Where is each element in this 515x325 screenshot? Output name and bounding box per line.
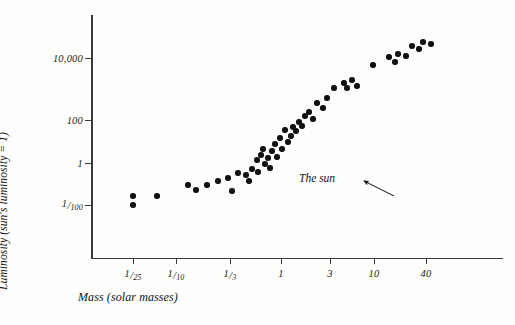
data-point bbox=[225, 175, 230, 180]
data-point bbox=[428, 41, 433, 46]
plot-area: 1/251/101/3131040 bbox=[91, 15, 515, 259]
x-tick-label: 1/25 bbox=[124, 268, 141, 282]
data-point bbox=[269, 148, 274, 153]
x-tick-label: 1 bbox=[278, 268, 283, 279]
data-point bbox=[344, 85, 349, 90]
x-tick-label: 1/3 bbox=[224, 268, 237, 282]
data-point bbox=[267, 165, 272, 170]
data-point bbox=[246, 178, 251, 183]
x-tick-mark bbox=[330, 258, 331, 264]
data-point bbox=[386, 54, 391, 59]
data-point bbox=[130, 202, 135, 207]
x-tick-mark bbox=[133, 258, 134, 264]
data-point bbox=[403, 53, 408, 58]
data-point bbox=[370, 62, 375, 67]
data-point bbox=[416, 46, 421, 51]
data-point bbox=[254, 157, 259, 162]
data-point bbox=[392, 59, 397, 64]
data-point bbox=[215, 178, 220, 183]
data-point bbox=[255, 169, 260, 174]
data-point bbox=[265, 155, 270, 160]
data-point bbox=[409, 43, 414, 48]
x-axis-line bbox=[91, 258, 503, 259]
data-point bbox=[243, 172, 248, 177]
x-tick-mark bbox=[374, 258, 375, 264]
x-tick-mark bbox=[426, 258, 427, 264]
y-tick-label-group: 10,00010011/100 bbox=[0, 15, 83, 259]
y-tick-label: 1 bbox=[78, 158, 83, 169]
data-point bbox=[229, 188, 234, 193]
data-point bbox=[320, 105, 325, 110]
data-point bbox=[310, 116, 315, 121]
data-point bbox=[279, 146, 284, 151]
data-point bbox=[349, 77, 354, 82]
data-point bbox=[277, 135, 282, 140]
data-point bbox=[249, 166, 254, 171]
data-point bbox=[285, 139, 290, 144]
x-axis-title: Mass (solar masses) bbox=[78, 290, 178, 305]
data-point bbox=[193, 187, 198, 192]
y-tick-mark bbox=[85, 205, 91, 206]
y-tick-label: 1/100 bbox=[62, 198, 83, 212]
x-tick-mark bbox=[281, 258, 282, 264]
x-tick-label: 10 bbox=[369, 268, 380, 279]
data-point bbox=[185, 182, 190, 187]
data-point bbox=[272, 141, 277, 146]
x-tick-label: 40 bbox=[421, 268, 432, 279]
data-point bbox=[235, 170, 240, 175]
data-point bbox=[420, 39, 425, 44]
x-tick-label: 3 bbox=[327, 268, 332, 279]
data-point bbox=[395, 51, 400, 56]
y-tick-mark bbox=[85, 163, 91, 164]
data-point bbox=[306, 109, 311, 114]
data-point bbox=[258, 152, 263, 157]
data-point bbox=[331, 85, 336, 90]
data-point bbox=[282, 127, 287, 132]
data-point bbox=[354, 83, 359, 88]
figure-canvas: Luminosity (sun's luminosity = 1) 10,000… bbox=[0, 0, 515, 325]
y-axis-line bbox=[91, 15, 93, 259]
data-point bbox=[204, 182, 209, 187]
annotation-arrow-icon bbox=[361, 178, 395, 200]
data-point bbox=[314, 100, 319, 105]
y-tick-mark bbox=[85, 58, 91, 59]
x-tick-mark bbox=[230, 258, 231, 264]
x-tick-mark bbox=[176, 258, 177, 264]
data-point bbox=[288, 133, 293, 138]
data-point bbox=[293, 128, 298, 133]
y-tick-label: 10,000 bbox=[53, 53, 83, 64]
data-point bbox=[274, 154, 279, 159]
annotation-label-the-sun: The sun bbox=[299, 172, 335, 184]
y-tick-label: 100 bbox=[67, 115, 83, 126]
data-point bbox=[260, 146, 265, 151]
data-point bbox=[299, 123, 304, 128]
x-tick-label: 1/10 bbox=[167, 268, 184, 282]
y-tick-mark bbox=[85, 120, 91, 121]
data-point bbox=[130, 193, 135, 198]
data-point bbox=[154, 193, 159, 198]
data-point bbox=[324, 95, 329, 100]
